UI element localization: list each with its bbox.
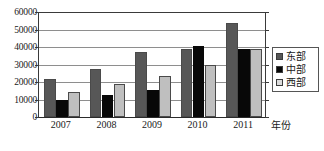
- bar-2007-中部: [56, 100, 68, 118]
- bar-group: [85, 12, 131, 117]
- bar-2007-东部: [44, 79, 56, 117]
- x-axis-tick-labels: 20072008200920102011: [38, 118, 266, 134]
- y-axis-tick-label: 60000: [1, 7, 37, 17]
- y-axis-tick-label: 10000: [1, 95, 37, 105]
- bar-group: [221, 12, 267, 117]
- chart-legend: 东部中部西部: [272, 47, 319, 92]
- bar-group: [39, 12, 85, 117]
- x-axis-tick-label: 2010: [175, 118, 221, 131]
- y-axis-tick-label: 20000: [1, 77, 37, 87]
- legend-item-label: 西部: [286, 77, 306, 88]
- bar-2009-西部: [159, 76, 171, 117]
- bar-2011-东部: [226, 23, 238, 118]
- legend-swatch-icon: [276, 79, 283, 86]
- legend-item-label: 中部: [286, 64, 306, 75]
- y-axis-tick-labels: 6000050000400003000020000100000: [0, 0, 37, 151]
- bar-2008-中部: [102, 95, 114, 117]
- bar-2010-西部: [205, 65, 217, 117]
- legend-swatch-icon: [276, 53, 283, 60]
- x-axis-title: 年份: [271, 119, 291, 132]
- y-axis-tick-label: 0: [1, 112, 37, 122]
- legend-item-东部[interactable]: 东部: [276, 50, 316, 63]
- legend-item-中部[interactable]: 中部: [276, 63, 316, 76]
- x-axis-tick-label: 2008: [84, 118, 130, 131]
- bar-chart: 6000050000400003000020000100000 20072008…: [0, 0, 324, 151]
- bar-2009-中部: [147, 90, 159, 117]
- y-axis-tick-label: 40000: [1, 42, 37, 52]
- legend-item-西部[interactable]: 西部: [276, 76, 316, 89]
- caption-strip: [0, 141, 324, 151]
- bar-2010-东部: [181, 49, 193, 117]
- bar-group: [176, 12, 222, 117]
- bar-2008-东部: [90, 69, 102, 117]
- bar-2007-西部: [68, 92, 80, 117]
- x-axis-tick-label: 2009: [129, 118, 175, 131]
- legend-swatch-icon: [276, 66, 283, 73]
- plot-area: [38, 12, 266, 117]
- legend-item-label: 东部: [286, 51, 306, 62]
- bar-2008-西部: [114, 84, 126, 117]
- bar-2011-中部: [238, 49, 250, 117]
- x-axis-tick-label: 2011: [220, 118, 266, 131]
- bar-2009-东部: [135, 52, 147, 117]
- y-axis-tick-label: 30000: [1, 60, 37, 70]
- y-axis-tick-label: 50000: [1, 25, 37, 35]
- x-axis-tick-label: 2007: [38, 118, 84, 131]
- bar-2010-中部: [193, 46, 205, 117]
- bar-2011-西部: [250, 49, 262, 117]
- bar-group: [130, 12, 176, 117]
